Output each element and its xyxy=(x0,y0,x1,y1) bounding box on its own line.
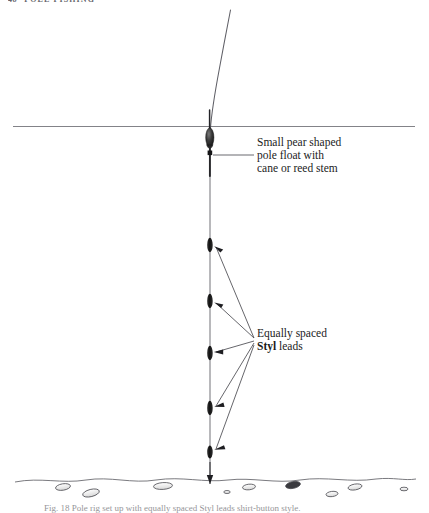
figure-caption: Fig. 18 Pole rig set up with equally spa… xyxy=(44,503,300,513)
bed-pebble xyxy=(153,482,172,490)
styl-lead-shot xyxy=(207,346,213,360)
styl-lead-shot xyxy=(207,294,213,308)
annotation-float-line-2: pole float with xyxy=(257,149,341,162)
bed-pebble xyxy=(82,487,100,498)
styl-lead-shot xyxy=(207,238,213,252)
annotation-styl-line-1: Equally spaced xyxy=(257,327,327,340)
bed-pebble xyxy=(348,483,363,491)
stem-collar xyxy=(208,151,213,156)
styl-annotation-arrows xyxy=(216,247,254,449)
annotation-styl-bold-word: Styl xyxy=(257,340,276,352)
hook-point-arrow xyxy=(207,475,213,484)
float-antenna xyxy=(210,10,230,129)
bed-pebble-group xyxy=(55,480,408,498)
river-bed-line xyxy=(15,478,416,482)
bed-pebble xyxy=(224,491,230,494)
bed-pebble xyxy=(55,483,71,492)
bed-pebble xyxy=(285,480,301,490)
bed-pebble xyxy=(242,484,256,491)
bed-pebble xyxy=(400,487,408,491)
annotation-styl-leads: Equally spaced Styl leads xyxy=(257,327,327,353)
annotation-float-line-3: cane or reed stem xyxy=(257,162,341,175)
styl-arrow-heads xyxy=(214,246,226,450)
annotation-float: Small pear shaped pole float with cane o… xyxy=(257,136,341,174)
pear-shaped-pole-float xyxy=(206,128,214,147)
bed-pebble xyxy=(326,491,339,498)
styl-lead-shot xyxy=(207,401,213,415)
annotation-float-line-1: Small pear shaped xyxy=(257,136,341,149)
styl-lead-shot xyxy=(207,446,213,459)
annotation-styl-line-2: Styl leads xyxy=(257,340,327,353)
